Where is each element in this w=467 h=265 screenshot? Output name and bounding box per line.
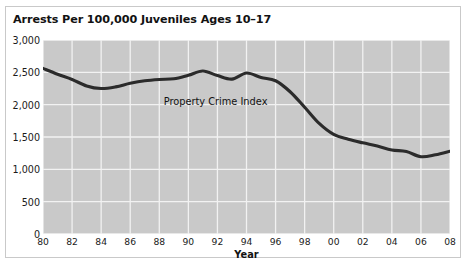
x-axis-tick: 82 bbox=[66, 236, 78, 247]
x-axis-tick: 92 bbox=[212, 236, 224, 247]
x-axis-tick: 86 bbox=[124, 236, 136, 247]
y-axis-tick: 500 bbox=[0, 196, 40, 207]
chart-figure: Arrests Per 100,000 Juveniles Ages 10–17… bbox=[0, 0, 467, 265]
x-axis-tick: 08 bbox=[444, 236, 456, 247]
plot-svg bbox=[43, 40, 450, 234]
x-axis-tick: 94 bbox=[241, 236, 253, 247]
x-axis-tick: 98 bbox=[299, 236, 311, 247]
y-axis-tick: 1,000 bbox=[0, 164, 40, 175]
x-axis-tick: 84 bbox=[95, 236, 107, 247]
x-axis-tick: 96 bbox=[270, 236, 282, 247]
x-axis-tick: 80 bbox=[37, 236, 49, 247]
x-axis-title: Year bbox=[43, 249, 450, 260]
x-axis-tick: 04 bbox=[386, 236, 398, 247]
plot-area bbox=[43, 40, 450, 234]
y-axis-tick-labels: 05001,0001,5002,0002,5003,000 bbox=[0, 0, 40, 265]
series-annotation-label: Property Crime Index bbox=[164, 96, 268, 107]
x-axis-tick: 00 bbox=[328, 236, 340, 247]
x-axis-tick: 06 bbox=[415, 236, 427, 247]
y-axis-tick: 2,500 bbox=[0, 67, 40, 78]
chart-title: Arrests Per 100,000 Juveniles Ages 10–17 bbox=[13, 13, 271, 26]
x-axis-tick: 90 bbox=[182, 236, 194, 247]
y-axis-tick: 2,000 bbox=[0, 99, 40, 110]
x-axis-tick: 02 bbox=[357, 236, 369, 247]
y-axis-tick: 0 bbox=[0, 229, 40, 240]
y-axis-tick: 3,000 bbox=[0, 35, 40, 46]
x-axis-tick: 88 bbox=[153, 236, 165, 247]
y-axis-tick: 1,500 bbox=[0, 132, 40, 143]
